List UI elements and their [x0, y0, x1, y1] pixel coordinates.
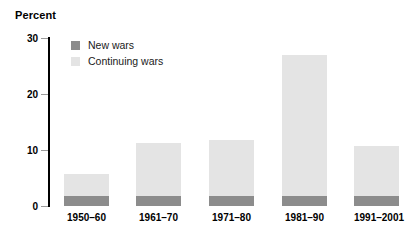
bar-group[interactable] [282, 55, 327, 206]
bar-segment-continuing-wars[interactable] [136, 143, 181, 196]
bar-group[interactable] [136, 143, 181, 206]
x-axis-category-label: 1950–60 [64, 212, 109, 223]
bar-segment-new-wars[interactable] [282, 196, 327, 206]
bars-layer: 1950–601961–701971–801981–901991–2001 [0, 0, 417, 239]
x-axis-category-label: 1961–70 [136, 212, 181, 223]
bar-segment-continuing-wars[interactable] [282, 55, 327, 197]
percent-wars-stacked-bar-chart: Percent 3020100 New wars Continuing wars… [0, 0, 417, 239]
bar-group[interactable] [209, 140, 254, 206]
bar-segment-continuing-wars[interactable] [354, 146, 399, 196]
bar-group[interactable] [354, 146, 399, 206]
x-axis-category-label: 1971–80 [209, 212, 254, 223]
x-axis-category-label: 1981–90 [282, 212, 327, 223]
bar-group[interactable] [64, 174, 109, 206]
bar-segment-new-wars[interactable] [136, 196, 181, 206]
bar-segment-new-wars[interactable] [209, 196, 254, 206]
bar-segment-new-wars[interactable] [354, 196, 399, 206]
bar-segment-new-wars[interactable] [64, 196, 109, 206]
bar-segment-continuing-wars[interactable] [64, 174, 109, 196]
x-axis-category-label: 1991–2001 [354, 212, 399, 223]
bar-segment-continuing-wars[interactable] [209, 140, 254, 197]
